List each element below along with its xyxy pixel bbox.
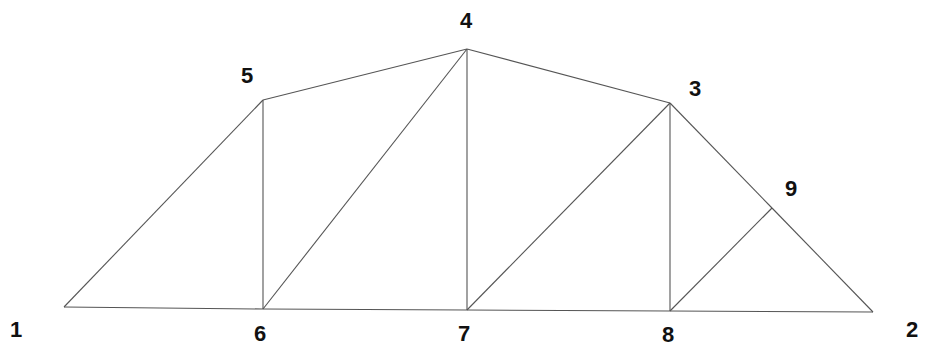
node-label-7: 7 <box>458 321 470 346</box>
node-label-3: 3 <box>689 76 701 101</box>
node-label-2: 2 <box>906 317 918 342</box>
node-label-8: 8 <box>662 322 674 347</box>
member-4-3 <box>467 49 670 103</box>
member-9-2 <box>772 208 873 312</box>
member-1-5 <box>64 100 263 307</box>
member-7-3 <box>467 103 670 310</box>
node-label-6: 6 <box>254 321 266 346</box>
node-label-9: 9 <box>785 176 797 201</box>
truss-members <box>64 49 873 312</box>
member-5-4 <box>263 49 467 100</box>
node-label-1: 1 <box>10 317 22 342</box>
member-3-9 <box>670 103 772 208</box>
member-6-4 <box>263 49 467 309</box>
node-labels: 123456789 <box>10 8 918 347</box>
member-8-9 <box>670 208 772 311</box>
member-6-7 <box>263 309 467 310</box>
truss-diagram: 123456789 <box>0 0 929 354</box>
member-7-8 <box>467 310 670 311</box>
member-1-6 <box>64 307 263 309</box>
member-8-2 <box>670 311 873 312</box>
node-label-4: 4 <box>460 8 473 33</box>
node-label-5: 5 <box>241 63 253 88</box>
